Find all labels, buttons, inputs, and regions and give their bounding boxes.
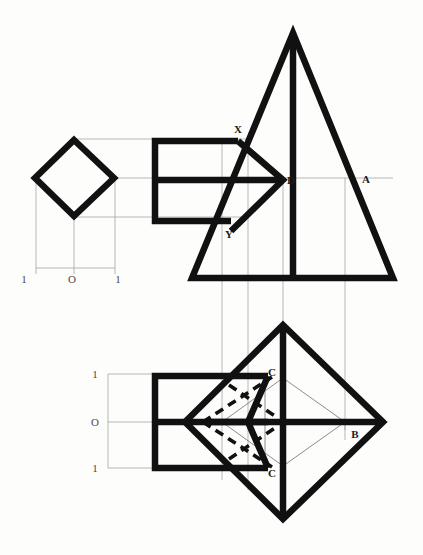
auxiliary-square-view [35, 140, 114, 216]
plan-construction-2 [283, 422, 345, 466]
vscale-label-origin: O [91, 416, 99, 428]
label-point-x: X [234, 123, 242, 135]
label-point-c-lower: C [268, 467, 276, 479]
auxiliary-diamond-outline [35, 140, 114, 216]
front-elevation-view [155, 33, 393, 278]
label-point-y: Y [225, 228, 233, 240]
scale-label-group: 1 O 1 1 O 1 [21, 273, 121, 474]
technical-drawing-canvas: X D A Y C B C 1 O 1 1 O 1 [0, 0, 423, 555]
plan-construction-1 [283, 378, 345, 422]
label-point-d: D [287, 174, 295, 186]
projection-lines-group [36, 139, 393, 490]
orthographic-projection-drawing: X D A Y C B C 1 O 1 1 O 1 [0, 0, 423, 555]
hscale-label-right: 1 [115, 273, 121, 285]
label-point-c-upper: C [268, 366, 276, 378]
vscale-label-bottom: 1 [92, 462, 98, 474]
hscale-label-left: 1 [21, 273, 27, 285]
label-point-a: A [362, 173, 370, 185]
vscale-label-top: 1 [92, 368, 98, 380]
front-cut-chevron [231, 141, 283, 231]
plan-view [155, 325, 383, 519]
hscale-label-origin: O [68, 273, 76, 285]
label-point-b: B [351, 428, 359, 440]
